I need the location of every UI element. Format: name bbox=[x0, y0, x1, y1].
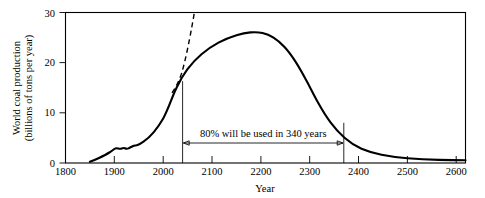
x-tick-labels: 1800 1900 2000 2100 2200 2300 2400 2500 … bbox=[55, 166, 467, 177]
x-tick-label: 2000 bbox=[153, 166, 174, 177]
y-tick-label: 0 bbox=[50, 158, 55, 169]
y-tick-label: 30 bbox=[45, 8, 56, 19]
x-tick-label: 2600 bbox=[446, 166, 467, 177]
y-axis-title: World coal production (billions of tons … bbox=[11, 34, 35, 141]
x-tick-label: 1900 bbox=[104, 166, 125, 177]
y-tick-label: 10 bbox=[45, 107, 56, 118]
x-tick-label: 2100 bbox=[202, 166, 223, 177]
y-tick-labels: 0 10 20 30 bbox=[45, 8, 56, 169]
x-axis-title: Year bbox=[255, 183, 275, 194]
depletion-annotation-label: 80% will be used in 340 years bbox=[200, 128, 327, 139]
depletion-span-arrow bbox=[183, 141, 343, 145]
chart-figure: 1800 1900 2000 2100 2200 2300 2400 2500 … bbox=[0, 0, 485, 198]
x-tick-label: 2500 bbox=[397, 166, 418, 177]
x-tick-label: 2200 bbox=[250, 166, 271, 177]
coal-production-curve bbox=[90, 32, 466, 162]
y-tick-label: 20 bbox=[45, 57, 56, 68]
y-axis-title-line1: World coal production bbox=[11, 40, 22, 135]
exponential-trend-dashed-line bbox=[172, 13, 194, 93]
world-coal-production-chart: 1800 1900 2000 2100 2200 2300 2400 2500 … bbox=[0, 0, 485, 198]
x-tick-label: 2300 bbox=[299, 166, 320, 177]
x-tick-label: 2400 bbox=[348, 166, 369, 177]
x-tick-label: 1800 bbox=[55, 166, 76, 177]
y-axis-title-line2: (billions of tons per year) bbox=[23, 34, 35, 141]
plot-frame bbox=[66, 13, 466, 164]
y-tick-marks bbox=[60, 13, 66, 164]
